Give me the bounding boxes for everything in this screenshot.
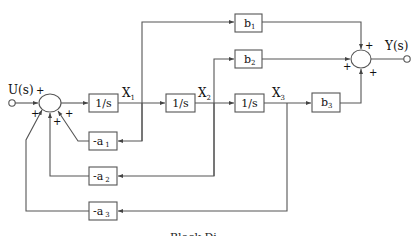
sign-b1: + — [365, 40, 373, 51]
integrator-2-label: 1/s — [172, 97, 189, 110]
a2-feedback-line — [118, 103, 214, 176]
input-port — [9, 100, 15, 106]
integrator-1-label: 1/s — [95, 97, 112, 110]
a3-feedback-line — [118, 103, 287, 211]
b3-to-sum-line — [340, 69, 361, 103]
sign-b3: + — [369, 67, 377, 78]
sign-input: + — [36, 85, 44, 96]
state-x3-label: X3 — [272, 86, 285, 102]
b1-to-sum-line — [262, 22, 361, 49]
state-x1-label: X1 — [122, 86, 135, 102]
block-diagram: U(s) + + + + 1/s X1 1/s X2 1/s X3 b1 b2 … — [0, 0, 417, 236]
a1-to-sum-line — [58, 111, 89, 141]
state-x2-label: X2 — [198, 86, 211, 102]
output-summing-junction — [351, 50, 371, 68]
b2-forward-line — [214, 59, 234, 176]
integrator-3-label: 1/s — [241, 97, 258, 110]
a1-feedback-line — [118, 103, 142, 141]
sign-a2: + — [53, 116, 61, 127]
sign-a1: + — [65, 108, 73, 119]
b1-forward-line — [142, 22, 234, 141]
figure-caption: Block Di — [170, 231, 217, 236]
sign-b2: + — [343, 61, 351, 72]
input-summing-junction — [39, 94, 61, 112]
output-port — [404, 56, 410, 62]
output-label: Y(s) — [384, 39, 408, 53]
input-label: U(s) — [8, 83, 34, 97]
